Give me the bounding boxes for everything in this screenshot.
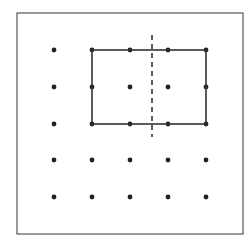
grid-dot	[90, 195, 95, 200]
grid-dot	[128, 195, 133, 200]
grid-dot	[204, 195, 209, 200]
grid-dot	[128, 158, 133, 163]
grid-dot	[166, 158, 171, 163]
grid-dot	[52, 195, 57, 200]
grid-dot	[204, 158, 209, 163]
grid-dot	[52, 85, 57, 90]
grid-dot	[166, 85, 171, 90]
grid-dot	[52, 122, 57, 127]
grid-dot	[166, 195, 171, 200]
grid-dot	[90, 158, 95, 163]
grid-dot	[52, 48, 57, 53]
grid-dot	[52, 158, 57, 163]
rectangle-shape	[92, 50, 206, 124]
dot-grid-diagram	[0, 0, 252, 249]
grid-dot	[128, 85, 133, 90]
